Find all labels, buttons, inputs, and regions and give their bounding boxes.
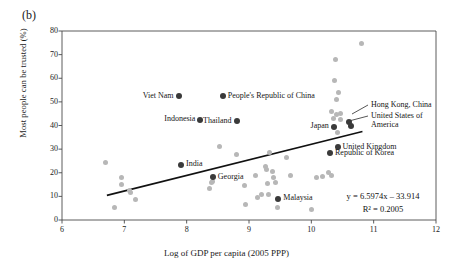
point-label: Indonesia xyxy=(164,115,195,124)
point-label: Malaysia xyxy=(283,194,312,203)
data-point xyxy=(119,175,124,180)
figure-panel: (b) Most people can be trusted (%) Log o… xyxy=(0,0,453,273)
point-label: Hong Kong, China xyxy=(371,101,449,110)
trend-line xyxy=(107,131,363,195)
data-point xyxy=(133,197,138,202)
data-point-labeled xyxy=(331,124,337,130)
data-point xyxy=(253,173,258,178)
data-point xyxy=(338,111,343,116)
data-point xyxy=(234,152,239,157)
r-squared-value: R² = 0.2005 xyxy=(327,203,439,216)
data-point xyxy=(334,97,339,102)
data-point xyxy=(333,57,338,62)
regression-equation: y = 6.5974x – 33.914 xyxy=(327,190,439,203)
data-point xyxy=(288,173,293,178)
plot-area xyxy=(0,0,453,273)
point-label: Japan xyxy=(311,122,329,131)
data-point xyxy=(266,192,271,197)
point-label: Thailand xyxy=(203,117,231,126)
leader-lines xyxy=(349,105,368,121)
data-point xyxy=(332,78,337,83)
data-point xyxy=(128,190,133,195)
point-label: People's Republic of China xyxy=(228,92,315,101)
data-point xyxy=(209,180,214,185)
data-point xyxy=(217,144,222,149)
data-point xyxy=(267,150,272,155)
regression-annotation: y = 6.5974x – 33.914 R² = 0.2005 xyxy=(327,190,439,216)
point-label: United States of America xyxy=(371,112,449,130)
point-label: India xyxy=(186,160,202,169)
data-point-labeled xyxy=(178,162,184,168)
data-point xyxy=(270,169,275,174)
point-label: Georgia xyxy=(218,173,244,182)
data-point xyxy=(242,183,247,188)
point-label: Viet Nam xyxy=(143,92,174,101)
data-point-labeled xyxy=(275,196,281,202)
data-point xyxy=(338,117,343,122)
data-point xyxy=(103,160,108,165)
point-label: Republic of Korea xyxy=(335,149,394,158)
